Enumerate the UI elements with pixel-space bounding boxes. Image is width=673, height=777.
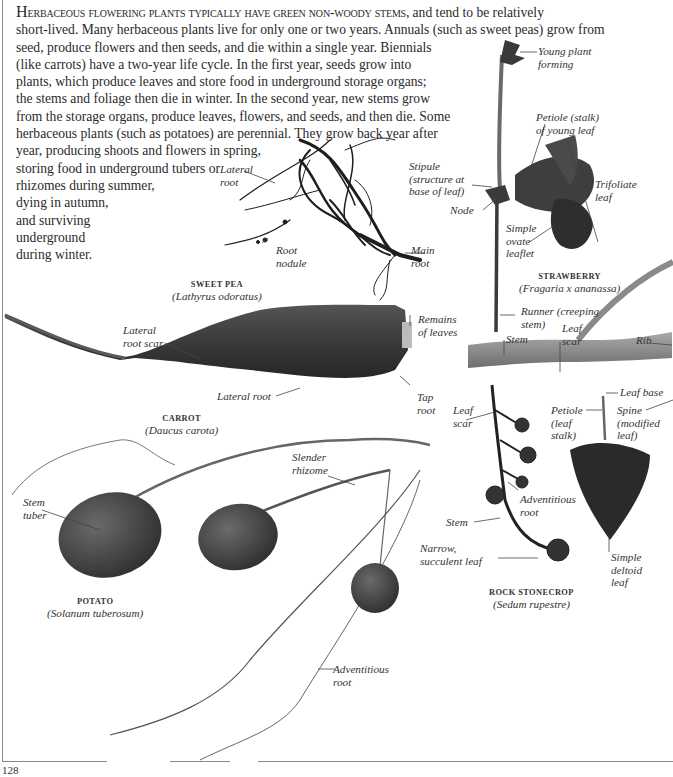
book-page: 128 bbox=[0, 0, 673, 777]
caption-sweet-pea: SWEET PEA (Lathyrus odoratus) bbox=[172, 279, 262, 303]
intro-line: short-lived. Many herbaceous plants live… bbox=[16, 21, 605, 38]
label-remains-of-leaves: Remains of leaves bbox=[418, 313, 457, 338]
label-leaf-base: Leaf base bbox=[620, 386, 663, 399]
caption-potato: POTATO (Solanum tuberosum) bbox=[47, 596, 143, 620]
label-simple-deltoid-leaf: Simple deltoid leaf bbox=[611, 551, 642, 589]
label-tap-root: Tap root bbox=[417, 391, 435, 416]
intro-line: storing food in underground tubers or bbox=[16, 160, 605, 177]
label-young-plant-forming: Young plant forming bbox=[538, 45, 591, 70]
caption-rock-stonecrop: ROCK STONECROP (Sedum rupestre) bbox=[489, 587, 574, 611]
carrot-root bbox=[5, 305, 412, 378]
intro-line: plants, which produce leaves and store f… bbox=[16, 73, 605, 90]
intro-line: from the storage organs, produce leaves,… bbox=[16, 108, 605, 125]
intro-line: seed, produce flowers and then seeds, an… bbox=[16, 39, 605, 56]
label-deltoid-petiole: Petiole (leaf stalk) bbox=[551, 404, 583, 442]
intro-line: herbaceous plants (such as potatoes) are… bbox=[16, 125, 605, 142]
label-stem: Stem bbox=[506, 333, 528, 346]
intro-line: Herbaceous flowering plants typically ha… bbox=[16, 3, 605, 21]
intro-line: dying in autumn, bbox=[16, 194, 605, 211]
label-root-nodule: Root nodule bbox=[276, 244, 306, 269]
label-stonecrop-leaf-scar: Leaf scar bbox=[453, 404, 473, 429]
label-slender-rhizome: Slender rhizome bbox=[292, 451, 328, 476]
label-stonecrop-stem: Stem bbox=[446, 516, 468, 529]
label-carrot-lateral-root: Lateral root bbox=[217, 390, 271, 403]
label-lateral-root-scar: Lateral root scar bbox=[123, 324, 163, 349]
label-potato-adventitious-root: Adventitious root bbox=[333, 663, 389, 688]
intro-line: the stems and foliage then die in winter… bbox=[16, 90, 605, 107]
label-runner: Runner (creeping stem) bbox=[521, 305, 599, 330]
intro-line: year, producing shoots and flowers in sp… bbox=[16, 142, 605, 159]
label-stonecrop-adventitious-root: Adventitious root bbox=[520, 493, 576, 518]
label-stem-tuber: Stem tuber bbox=[23, 496, 47, 521]
label-narrow-succulent-leaf: Narrow, succulent leaf bbox=[420, 542, 482, 567]
label-leaf-scar: Leaf scar bbox=[562, 322, 582, 347]
label-rib: Rib bbox=[636, 334, 652, 347]
label-main-root: Main root bbox=[411, 244, 435, 269]
label-stipule: Stipule (structure at base of leaf) bbox=[409, 160, 464, 198]
label-petiole-young-leaf: Petiole (stalk) of young leaf bbox=[536, 111, 599, 136]
label-trifoliate-leaf: Trifoliate leaf bbox=[595, 178, 637, 203]
label-node: Node bbox=[450, 204, 474, 217]
label-sweet-pea-lateral-root: Lateral root bbox=[220, 163, 253, 188]
intro-line: (like carrots) have a two-year life cycl… bbox=[16, 56, 605, 73]
label-spine: Spine (modified leaf) bbox=[617, 404, 660, 442]
caption-strawberry: STRAWBERRY (Fragaria x ananassa) bbox=[519, 271, 620, 295]
intro-line: rhizomes during summer, bbox=[16, 177, 605, 194]
label-simple-ovate-leaflet: Simple ovate leaflet bbox=[506, 222, 536, 260]
caption-carrot: CARROT (Daucus carota) bbox=[145, 413, 218, 437]
